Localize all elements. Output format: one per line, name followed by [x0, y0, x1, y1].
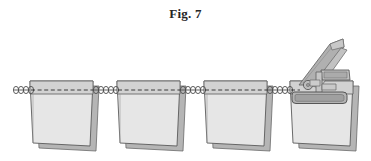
clamp-pivot-pin	[306, 83, 309, 86]
clamp-assembly	[292, 39, 350, 104]
clamp-upper-jaw-inner	[324, 72, 347, 78]
clamp-cross-brace	[322, 84, 336, 90]
figure-drawing	[0, 0, 371, 161]
sheet-2	[117, 81, 186, 151]
figure-container: Fig. 7	[0, 0, 371, 161]
clamp-lower-jaw-inner	[295, 95, 344, 102]
sheet-1-top-band	[30, 81, 93, 94]
sheet-2-top-band	[117, 81, 180, 94]
sheet-3-top-band	[204, 81, 267, 94]
sheet-3	[204, 81, 273, 151]
sheet-1	[30, 81, 99, 151]
clamp-link	[310, 80, 320, 86]
